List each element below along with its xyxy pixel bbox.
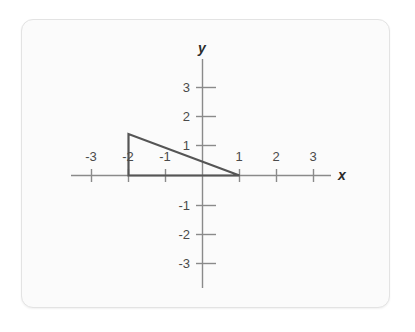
x-axis-label: x [338,168,346,182]
x-tick-label--1: -1 [152,150,178,163]
y-tick-label-2: 2 [164,110,190,123]
y-tick-label--3: -3 [164,257,190,270]
coordinate-plane-svg [0,0,415,332]
y-tick-label--2: -2 [164,228,190,241]
y-axis-label: y [198,41,206,55]
figure-root: 3 2 1 -1 -2 -3 -3 -2 -1 1 2 3 x y [0,0,415,332]
x-tick-label--3: -3 [78,150,104,163]
x-tick-label-1: 1 [226,150,252,163]
x-tick-label-3: 3 [300,150,326,163]
coordinate-plane: 3 2 1 -1 -2 -3 -3 -2 -1 1 2 3 x y [0,0,415,332]
y-tick-label--1: -1 [164,199,190,212]
x-tick-label--2: -2 [115,150,141,163]
y-tick-label-3: 3 [164,81,190,94]
x-tick-label-2: 2 [263,150,289,163]
